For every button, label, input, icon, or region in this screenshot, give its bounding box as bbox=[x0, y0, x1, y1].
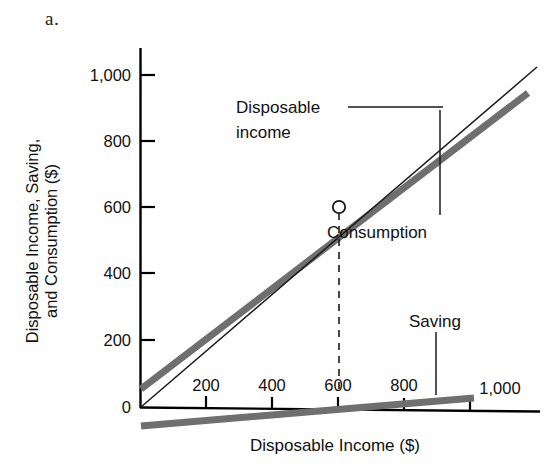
y-tick-label-0: 0 bbox=[122, 398, 131, 416]
x-axis-tick-labels: 200 400 600 800 1,000 bbox=[192, 376, 520, 397]
x-tick-label-800: 800 bbox=[390, 376, 418, 394]
y-tick-label-400: 400 bbox=[103, 264, 131, 282]
y-tick-label-600: 600 bbox=[103, 198, 131, 216]
x-axis-title: Disposable Income ($) bbox=[170, 436, 500, 456]
x-tick-label-400: 400 bbox=[258, 376, 286, 394]
annotation-consumption: Consumption bbox=[327, 223, 427, 242]
x-tick-label-1000: 1,000 bbox=[479, 379, 520, 397]
annotation-disposable-income-line2: income bbox=[236, 123, 291, 142]
y-tick-label-800: 800 bbox=[103, 132, 131, 150]
y-tick-label-200: 200 bbox=[103, 331, 131, 349]
x-tick-label-200: 200 bbox=[192, 376, 220, 394]
annotation-saving: Saving bbox=[409, 312, 461, 331]
x-tick-label-600: 600 bbox=[324, 376, 352, 394]
y-tick-label-1000: 1,000 bbox=[90, 66, 131, 84]
plot-area: 0 200 400 600 800 1,000 200 400 600 800 … bbox=[0, 0, 548, 471]
y-axis-tick-labels: 0 200 400 600 800 1,000 bbox=[90, 66, 131, 416]
chart-figure: a. Disposable Income, Saving, and Consum… bbox=[0, 0, 548, 471]
y-axis-ticks bbox=[140, 75, 155, 340]
annotation-disposable-income-line1: Disposable bbox=[236, 98, 320, 117]
breakeven-marker-circle bbox=[333, 201, 345, 213]
series-saving-line bbox=[141, 398, 474, 426]
